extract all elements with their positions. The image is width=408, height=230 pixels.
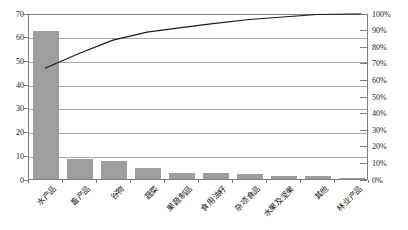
pareto-chart: 010203040506070 0%10%20%30%40%50%60%70%8…: [0, 0, 408, 230]
right-axis-label: 40%: [372, 109, 387, 118]
category-label-林业产品: 林业产品: [335, 184, 364, 213]
right-axis-label: 10%: [372, 159, 387, 168]
cumulative-line-layer: [28, 14, 368, 180]
right-axis-tick: [360, 163, 367, 164]
right-axis-label: 80%: [372, 43, 387, 52]
category-label-食用油籽: 食用油籽: [199, 184, 228, 213]
left-axis-tick: [24, 61, 28, 62]
left-axis-tick: [24, 14, 28, 15]
right-axis-label: 30%: [372, 126, 387, 135]
x-axis-tick: [198, 180, 199, 183]
x-axis-tick: [334, 180, 335, 183]
right-axis-label: 100%: [372, 10, 391, 19]
x-axis-tick: [232, 180, 233, 183]
right-axis-tick: [360, 47, 367, 48]
right-axis-tick: [360, 63, 367, 64]
left-axis-label: 0: [2, 176, 24, 185]
right-axis-label: 60%: [372, 76, 387, 85]
right-axis-tick: [360, 146, 367, 147]
right-axis-label: 20%: [372, 142, 387, 151]
x-axis-tick: [300, 180, 301, 183]
cumulative-percentage-line: [45, 14, 362, 68]
category-label-水产品: 水产品: [35, 184, 58, 207]
left-axis-tick: [24, 85, 28, 86]
x-axis-tick: [96, 180, 97, 183]
left-axis-label: 10: [2, 152, 24, 161]
x-axis-tick: [28, 180, 29, 183]
category-label-杂项食品: 杂项食品: [233, 184, 262, 213]
x-axis-tick: [368, 180, 369, 183]
x-axis-tick: [130, 180, 131, 183]
category-label-果蔬制品: 果蔬制品: [165, 184, 194, 213]
x-axis-tick: [266, 180, 267, 183]
category-label-水果及坚果: 水果及坚果: [262, 184, 297, 219]
x-axis-tick: [62, 180, 63, 183]
right-axis-tick: [360, 113, 367, 114]
right-axis-label: 50%: [372, 93, 387, 102]
right-axis-tick: [360, 14, 367, 15]
right-axis-tick: [360, 130, 367, 131]
right-axis-tick: [360, 80, 367, 81]
left-axis-tick: [24, 108, 28, 109]
right-axis-label: 70%: [372, 59, 387, 68]
right-axis-tick: [360, 180, 367, 181]
left-axis-label: 50: [2, 57, 24, 66]
right-axis-label: 90%: [372, 26, 387, 35]
right-axis-label: 0%: [372, 176, 383, 185]
left-axis-tick: [24, 156, 28, 157]
left-axis-label: 40: [2, 81, 24, 90]
left-axis-label: 70: [2, 10, 24, 19]
category-label-蔬菜: 蔬菜: [143, 184, 161, 202]
left-axis-label: 30: [2, 104, 24, 113]
left-axis-tick: [24, 37, 28, 38]
left-axis-label: 60: [2, 33, 24, 42]
x-axis-tick: [164, 180, 165, 183]
category-label-畜产品: 畜产品: [69, 184, 92, 207]
right-axis-tick: [360, 30, 367, 31]
category-label-谷物: 谷物: [109, 184, 127, 202]
right-axis-tick: [360, 97, 367, 98]
category-label-其他: 其他: [313, 184, 331, 202]
left-axis-tick: [24, 132, 28, 133]
left-axis-label: 20: [2, 128, 24, 137]
